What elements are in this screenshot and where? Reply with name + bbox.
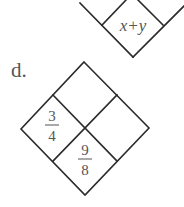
cell-left: 3 4	[45, 108, 59, 144]
diamond-problems: x+y d. 3 4 9 8	[0, 0, 184, 207]
cell-bottom: 9 8	[78, 142, 92, 178]
left-numerator: 3	[48, 108, 56, 124]
left-denominator: 4	[48, 128, 56, 144]
diamond-problem-c: x+y	[80, 0, 184, 57]
problem-label: d.	[11, 58, 27, 82]
diamond-problem-d: 3 4 9 8	[21, 62, 149, 195]
cell-bottom-text: x+y	[119, 16, 147, 35]
bottom-denominator: 8	[81, 162, 89, 178]
bottom-numerator: 9	[81, 142, 89, 158]
